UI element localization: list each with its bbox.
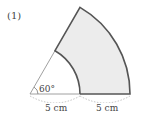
dimension-arc-inner bbox=[30, 96, 80, 103]
shaded-region bbox=[55, 7, 130, 94]
inner-length-label: 5 cm bbox=[45, 103, 67, 113]
dimension-arc-outer bbox=[80, 96, 130, 103]
angle-label: 60° bbox=[39, 84, 55, 94]
angle-arc bbox=[34, 87, 38, 94]
outer-length-label: 5 cm bbox=[96, 103, 118, 113]
annular-sector-diagram bbox=[0, 0, 141, 117]
